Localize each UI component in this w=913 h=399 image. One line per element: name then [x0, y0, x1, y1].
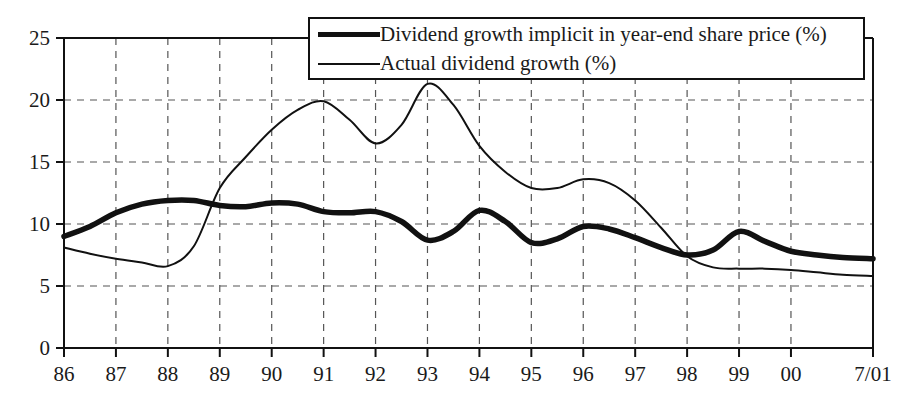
series-line-actual-dividend-growth: [64, 83, 873, 276]
legend-label-implicit-dividend-growth: Dividend growth implicit in year-end sha…: [380, 24, 827, 45]
x-axis-tick-label: 92: [365, 362, 386, 387]
series-lines: [64, 83, 873, 276]
legend-item-actual-dividend-growth: Actual dividend growth (%): [310, 49, 863, 78]
gridlines-vertical: [116, 38, 873, 348]
legend-swatch-thin-line-icon: [318, 54, 380, 74]
x-axis-tick-label: 7/01: [854, 362, 891, 387]
y-axis-tick-label: 10: [8, 212, 50, 237]
x-axis-tick-label: 99: [729, 362, 750, 387]
x-axis-tick-label: 90: [261, 362, 282, 387]
x-axis-tick-label: 97: [625, 362, 646, 387]
legend-label-actual-dividend-growth: Actual dividend growth (%): [380, 53, 616, 74]
x-axis-tick-label: 91: [313, 362, 334, 387]
x-axis-tick-label: 93: [417, 362, 438, 387]
legend-swatch-thick-line-icon: [318, 25, 380, 45]
axis-lines: [64, 38, 873, 348]
y-axis-tick-label: 15: [8, 150, 50, 175]
y-axis-tick-label: 20: [8, 88, 50, 113]
x-axis-tick-label: 88: [157, 362, 178, 387]
x-axis-tick-label: 96: [573, 362, 594, 387]
y-axis-tick-label: 25: [8, 26, 50, 51]
x-axis-tick-label: 95: [521, 362, 542, 387]
x-axis-tick-label: 00: [780, 362, 801, 387]
x-axis-tick-label: 89: [209, 362, 230, 387]
x-axis-tick-label: 87: [105, 362, 126, 387]
y-axis-tick-label: 5: [8, 274, 50, 299]
chart-legend: Dividend growth implicit in year-end sha…: [308, 17, 865, 80]
y-axis-tick-label: 0: [8, 336, 50, 361]
x-axis-tick-label: 98: [677, 362, 698, 387]
x-axis-tick-label: 86: [54, 362, 75, 387]
x-axis-tick-label: 94: [469, 362, 490, 387]
legend-item-implicit-dividend-growth: Dividend growth implicit in year-end sha…: [310, 20, 863, 49]
series-line-implicit-dividend-growth: [64, 200, 873, 259]
dividend-growth-chart-figure: 0510152025 86878889909192939495969798990…: [0, 0, 913, 399]
